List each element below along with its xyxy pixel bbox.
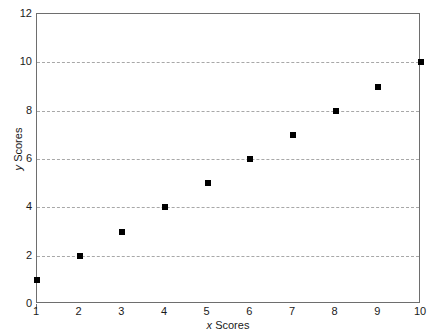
x-axis-title-text: Scores [212,319,249,331]
data-point [333,108,339,114]
y-tick-label: 12 [20,7,32,19]
gridline-y-8 [37,111,419,112]
y-axis-variable: y [12,165,24,171]
x-tick-label: 1 [33,305,39,317]
data-point [247,156,253,162]
data-point [34,277,40,283]
x-tick-label: 10 [414,305,426,317]
data-point [418,59,424,65]
data-point [205,180,211,186]
gridline-y-10 [37,62,419,63]
data-point [119,229,125,235]
x-tick-label: 5 [204,305,210,317]
x-tick-label: 9 [374,305,380,317]
y-tick-label: 0 [26,297,32,309]
data-point [375,84,381,90]
x-tick-label: 2 [76,305,82,317]
plot-area [36,13,420,303]
data-point [162,204,168,210]
x-axis-title: x Scores [36,319,420,331]
y-tick-label: 6 [26,152,32,164]
x-tick-label: 7 [289,305,295,317]
gridline-y-4 [37,207,419,208]
data-point [77,253,83,259]
gridline-y-6 [37,159,419,160]
data-point [290,132,296,138]
x-tick-label: 8 [332,305,338,317]
x-tick-label: 3 [118,305,124,317]
y-tick-label: 10 [20,55,32,67]
scatter-plot-figure: 024681012 12345678910 x Scores y Scores [0,0,436,336]
y-tick-label: 8 [26,104,32,116]
y-tick-label: 2 [26,249,32,261]
x-tick-label: 4 [161,305,167,317]
y-tick-label: 4 [26,200,32,212]
y-axis-title: y Scores [12,89,24,209]
x-tick-label: 6 [246,305,252,317]
gridline-y-2 [37,256,419,257]
y-axis-title-text: Scores [12,128,24,165]
